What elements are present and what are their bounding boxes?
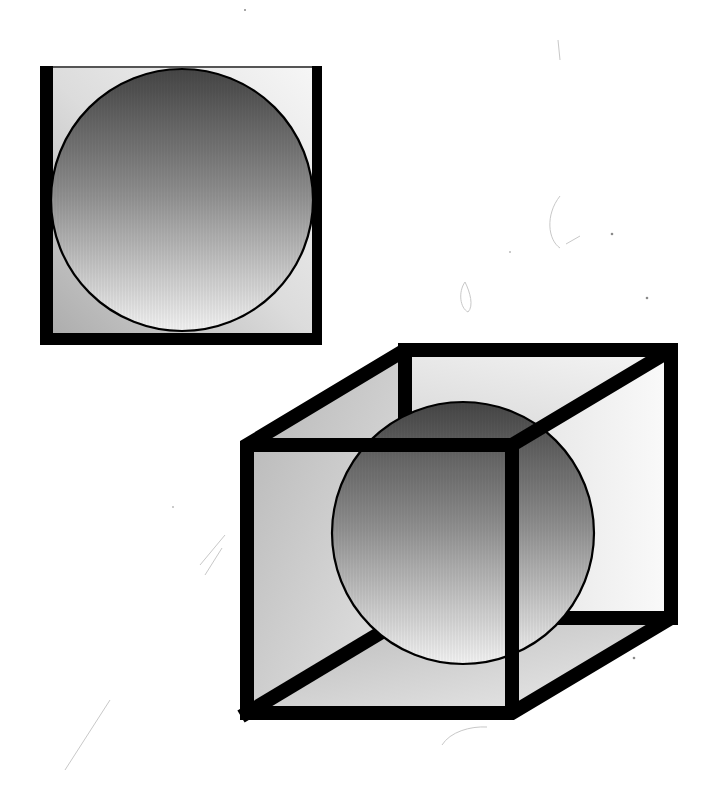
square-bottom-edge — [40, 333, 322, 345]
cube-front-face — [254, 452, 505, 706]
flat-square-figure — [40, 66, 322, 345]
inscribed-circle-texture — [52, 70, 312, 330]
diagram-canvas — [0, 0, 707, 785]
wire-cube-figure — [247, 350, 671, 713]
